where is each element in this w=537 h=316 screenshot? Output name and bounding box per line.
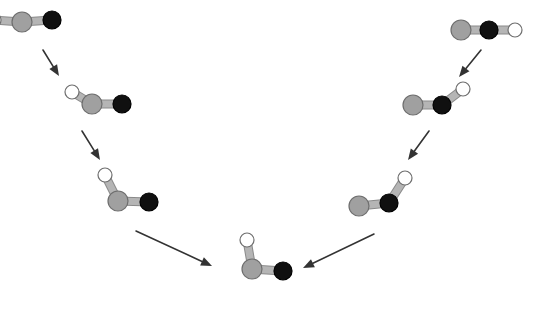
black-atom-left-step-1-2 — [43, 11, 61, 29]
arrow-left-1-shaft — [43, 50, 53, 67]
gray-atom-left-step-1-1 — [12, 12, 32, 32]
black-atom-left-step-2-2 — [113, 95, 131, 113]
black-atom-center-step-bent-2 — [274, 262, 292, 280]
white-atom-right-step-1-2 — [508, 23, 522, 37]
molecule-atoms-right-step-1 — [451, 20, 522, 40]
arrow-right-2 — [408, 131, 429, 160]
arrow-right-2-head — [408, 148, 418, 160]
arrow-right-2-shaft — [414, 131, 429, 151]
black-atom-left-step-3-2 — [140, 193, 158, 211]
black-atom-right-step-2-1 — [433, 96, 451, 114]
gray-atom-left-step-2-1 — [82, 94, 102, 114]
arrows-layer — [43, 50, 481, 268]
diagram-canvas — [0, 0, 537, 316]
gray-atom-right-step-2-0 — [403, 95, 423, 115]
arrow-right-1-shaft — [466, 50, 481, 68]
arrow-left-2-shaft — [82, 131, 94, 151]
white-atom-left-step-3-0 — [98, 168, 112, 182]
arrow-left-1-head — [49, 64, 59, 76]
black-atom-right-step-3-1 — [380, 194, 398, 212]
arrow-right-3-head — [303, 259, 315, 268]
arrow-right-1 — [459, 50, 481, 77]
black-atom-right-step-1-1 — [480, 21, 498, 39]
molecule-atoms-right-step-2 — [403, 82, 470, 115]
gray-atom-left-step-3-1 — [108, 191, 128, 211]
white-atom-left-step-2-0 — [65, 85, 79, 99]
arrow-right-3 — [303, 234, 374, 268]
white-atom-right-step-2-2 — [456, 82, 470, 96]
white-atom-right-step-3-2 — [398, 171, 412, 185]
molecule-atoms-left-step-2 — [65, 85, 131, 114]
gray-atom-right-step-3-0 — [349, 196, 369, 216]
reaction-pathway-diagram — [0, 0, 537, 316]
molecule-atoms-right-step-3 — [349, 171, 412, 216]
arrow-right-3-shaft — [313, 234, 374, 263]
gray-atom-right-step-1-0 — [451, 20, 471, 40]
arrow-left-3-head — [200, 257, 212, 266]
arrow-left-1 — [43, 50, 59, 76]
arrow-left-2-head — [90, 148, 100, 160]
bonds-layer — [0, 20, 515, 271]
arrow-left-3 — [136, 231, 212, 266]
white-atom-center-step-bent-0 — [240, 233, 254, 247]
gray-atom-center-step-bent-1 — [242, 259, 262, 279]
atoms-layer — [0, 11, 522, 280]
arrow-left-2 — [82, 131, 100, 160]
arrow-left-3-shaft — [136, 231, 202, 261]
